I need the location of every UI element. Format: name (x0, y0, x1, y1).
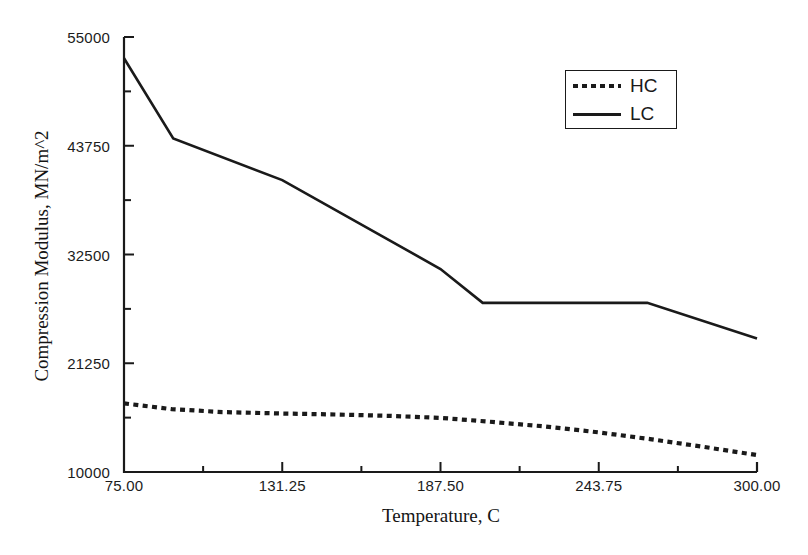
x-axis-title: Temperature, C (124, 505, 758, 527)
chart-figure: 5500043750325002125010000 75.00131.25187… (0, 0, 808, 555)
y-tick-label: 32500 (0, 246, 110, 263)
x-tick-label: 300.00 (733, 477, 780, 494)
x-tick-label: 75.00 (105, 477, 144, 494)
series-line-hc (124, 403, 757, 455)
legend-entry-hc: HC (566, 71, 676, 100)
y-axis-title: Compression Modulus, MN/m^2 (31, 46, 53, 466)
legend-swatch-solid-icon (573, 109, 621, 119)
y-tick-label: 21250 (0, 355, 110, 372)
plot-area (0, 0, 808, 555)
legend-swatch-dotted-icon (573, 80, 621, 90)
legend-label-hc: HC (630, 76, 657, 95)
x-tick-label: 187.50 (417, 477, 464, 494)
legend-entry-lc: LC (566, 100, 676, 129)
y-tick-label: 55000 (0, 29, 110, 46)
x-axis-ticks (124, 462, 757, 472)
y-tick-label: 10000 (0, 464, 110, 481)
y-axis-ticks (124, 37, 134, 472)
chart-legend: HC LC (565, 70, 677, 129)
x-tick-label: 243.75 (575, 477, 622, 494)
legend-label-lc: LC (630, 104, 654, 123)
y-tick-label: 43750 (0, 137, 110, 154)
x-tick-label: 131.25 (259, 477, 306, 494)
